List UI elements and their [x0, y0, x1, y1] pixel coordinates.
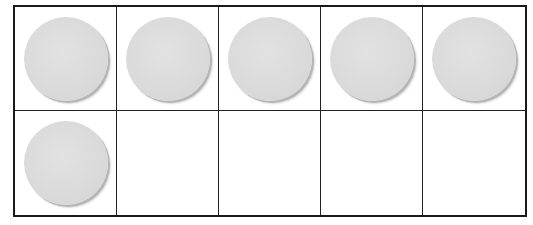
- cell-r1-c5: [423, 7, 525, 111]
- cell-r2-c4: [321, 111, 423, 215]
- cell-r2-c2: [117, 111, 219, 215]
- cell-r2-c1: [15, 111, 117, 215]
- cell-r1-c3: [219, 7, 321, 111]
- cell-r2-c3: [219, 111, 321, 215]
- cell-r1-c4: [321, 7, 423, 111]
- ten-frame: [13, 5, 527, 217]
- counter-icon: [24, 17, 108, 101]
- counter-icon: [330, 17, 414, 101]
- counter-icon: [24, 121, 108, 205]
- counter-icon: [126, 17, 210, 101]
- cell-r1-c1: [15, 7, 117, 111]
- cell-r2-c5: [423, 111, 525, 215]
- counter-icon: [228, 17, 312, 101]
- cell-r1-c2: [117, 7, 219, 111]
- counter-icon: [432, 17, 516, 101]
